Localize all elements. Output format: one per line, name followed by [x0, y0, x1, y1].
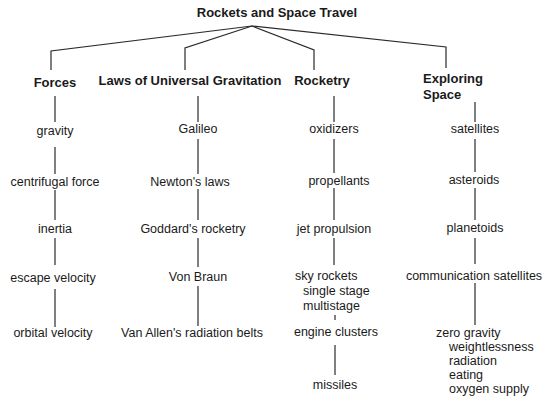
node-multistage: multistage: [303, 299, 360, 313]
node-eating: eating: [449, 368, 483, 382]
branch-heading-forces: Forces: [34, 76, 77, 90]
node-propellants: propellants: [308, 174, 369, 188]
node-van-allen: Van Allen's radiation belts: [121, 326, 263, 340]
node-orbital-velocity: orbital velocity: [13, 326, 92, 340]
node-jet-propulsion: jet propulsion: [297, 222, 371, 236]
node-satellites: satellites: [451, 122, 500, 136]
node-oxygen-supply: oxygen supply: [449, 382, 529, 396]
branch-heading-space: Space: [423, 88, 461, 102]
node-gravity: gravity: [37, 124, 74, 138]
root-title: Rockets and Space Travel: [197, 6, 357, 20]
branch-heading-laws: Laws of Universal Gravitation: [99, 74, 282, 88]
node-galileo: Galileo: [179, 122, 218, 136]
node-goddards-rocketry: Goddard's rocketry: [140, 222, 245, 236]
node-sky-rockets: sky rockets: [295, 269, 358, 283]
node-missiles: missiles: [313, 378, 357, 392]
branch-heading-exploring: Exploring: [423, 72, 483, 86]
node-weightlessness: weightlessness: [449, 340, 534, 354]
node-newtons-laws: Newton's laws: [150, 175, 230, 189]
node-inertia: inertia: [38, 222, 72, 236]
node-asteroids: asteroids: [449, 173, 500, 187]
node-centrifugal-force: centrifugal force: [11, 175, 100, 189]
branch-heading-rocketry: Rocketry: [294, 74, 350, 88]
node-oxidizers: oxidizers: [309, 122, 358, 136]
node-escape-velocity: escape velocity: [10, 271, 95, 285]
node-radiation: radiation: [449, 354, 497, 368]
node-planetoids: planetoids: [447, 221, 504, 235]
node-single-stage: single stage: [303, 284, 370, 298]
node-zero-gravity: zero gravity: [436, 326, 501, 340]
node-von-braun: Von Braun: [169, 270, 227, 284]
node-engine-clusters: engine clusters: [294, 325, 378, 339]
node-communication-satellites: communication satellites: [406, 269, 542, 283]
